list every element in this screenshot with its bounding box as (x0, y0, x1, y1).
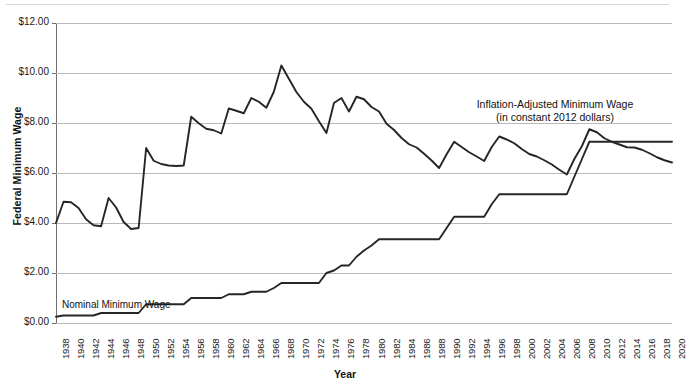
plot-area: $12.00$10.00$8.00$6.00$4.00$2.00$0.00 (56, 23, 672, 323)
x-tick-label: 1986 (421, 339, 432, 359)
x-tick-label: 2002 (541, 339, 552, 359)
x-tick-label: 1946 (120, 339, 131, 359)
y-tick-label: $6.00 (0, 166, 49, 177)
x-tick-label: 1944 (105, 339, 116, 359)
x-tick-label: 2008 (586, 339, 597, 359)
x-tick-label: 2000 (526, 339, 537, 359)
x-tick-label: 1978 (360, 339, 371, 359)
x-tick-label: 1992 (466, 339, 477, 359)
x-tick-label: 2004 (556, 339, 567, 359)
inflation-adjusted-annotation-line1: Inflation-Adjusted Minimum Wage (462, 98, 648, 111)
nominal-annotation: Nominal Minimum Wage (62, 298, 212, 311)
x-tick-label: 2020 (676, 339, 687, 359)
x-tick-label: 2006 (571, 339, 582, 359)
x-tick-label: 2012 (616, 339, 627, 359)
x-tick-label: 1960 (225, 339, 236, 359)
x-tick-label: 1972 (315, 339, 326, 359)
x-tick-label: 2010 (601, 339, 612, 359)
y-tick-label: $8.00 (0, 116, 49, 127)
inflation-adjusted-annotation-line2: (in constant 2012 dollars) (462, 111, 648, 124)
x-tick-label: 1954 (180, 339, 191, 359)
x-tick-label: 1942 (90, 339, 101, 359)
x-tick-label: 1968 (285, 339, 296, 359)
inflation-adjusted-annotation: Inflation-Adjusted Minimum Wage (in cons… (462, 98, 648, 124)
top-divider-rule (6, 4, 669, 5)
x-axis-title: Year (0, 368, 690, 380)
x-tick-label: 1940 (75, 339, 86, 359)
x-tick-label: 2018 (661, 339, 672, 359)
x-tick-label: 1948 (135, 339, 146, 359)
y-tick-label: $10.00 (0, 66, 49, 77)
x-tick-label: 1952 (165, 339, 176, 359)
x-tick-label: 1970 (300, 339, 311, 359)
y-tick-mark (52, 323, 56, 324)
y-tick-label: $12.00 (0, 16, 49, 27)
y-tick-label: $2.00 (0, 266, 49, 277)
y-tick-label: $4.00 (0, 216, 49, 227)
x-tick-label: 1958 (210, 339, 221, 359)
x-tick-label: 1998 (511, 339, 522, 359)
x-tick-label: 1984 (406, 339, 417, 359)
x-tick-label: 1962 (240, 339, 251, 359)
series-line-inflation-adjusted (56, 66, 672, 230)
x-tick-label: 1994 (481, 339, 492, 359)
x-tick-label: 1964 (255, 339, 266, 359)
series-line-nominal (56, 142, 672, 317)
x-tick-label: 1982 (391, 339, 402, 359)
x-tick-label: 1990 (451, 339, 462, 359)
x-tick-label: 1980 (376, 339, 387, 359)
x-tick-label: 1966 (270, 339, 281, 359)
x-tick-label: 2016 (646, 339, 657, 359)
x-tick-labels-group: 1938194019421944194619481950195219541956… (56, 327, 672, 367)
x-tick-label: 1974 (330, 339, 341, 359)
x-tick-label: 1938 (60, 339, 71, 359)
x-tick-label: 1996 (496, 339, 507, 359)
x-tick-label: 1988 (436, 339, 447, 359)
gridline (56, 323, 672, 324)
x-tick-label: 1976 (345, 339, 356, 359)
y-tick-label: $0.00 (0, 316, 49, 327)
data-series-group (56, 23, 672, 323)
x-tick-label: 1950 (150, 339, 161, 359)
x-tick-label: 1956 (195, 339, 206, 359)
x-tick-label: 2014 (631, 339, 642, 359)
